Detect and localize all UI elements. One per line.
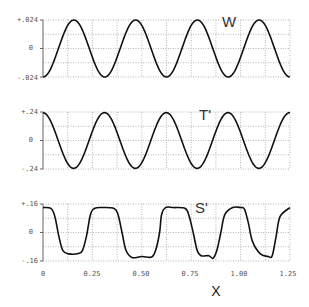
panel-s-prime: +.16 0 -.16 S' (21, 199, 290, 265)
panel-s-prime-ytick-mid: 0 (29, 228, 33, 236)
x-tick-4: 1.00 (231, 270, 248, 278)
panel-t-prime-ytick-top: +.24 (21, 108, 38, 116)
panel-s-prime-ytick-top: +.16 (21, 200, 38, 208)
panel-t-prime-ytick-bot: -.24 (21, 165, 38, 173)
panel-w-grid (40, 20, 290, 77)
panel-t-prime: +.24 0 -.24 T' (21, 106, 290, 173)
panel-s-prime-ytick-bot: -.16 (21, 257, 38, 265)
x-tick-2: 0.50 (133, 270, 150, 278)
panel-w-ytick-mid: 0 (29, 44, 33, 52)
panel-w-ytick-bot: -.024 (17, 74, 38, 82)
panel-t-prime-label: T' (199, 106, 211, 123)
panel-w-label: W (222, 13, 237, 30)
x-tick-0: 0 (41, 270, 45, 278)
panel-s-prime-grid (40, 204, 290, 261)
panel-s-prime-label: S' (195, 199, 208, 216)
panel-w: +.024 0 -.024 W (17, 13, 290, 82)
panel-t-prime-grid (40, 112, 290, 169)
chart-figure: +.024 0 -.024 W +.24 0 -.24 T' +.16 0 -.… (0, 0, 309, 307)
x-axis-label: X (211, 283, 221, 299)
panel-t-prime-ytick-mid: 0 (29, 136, 33, 144)
panel-w-ytick-top: +.024 (17, 16, 38, 24)
x-tick-3: 0.75 (182, 270, 199, 278)
x-tick-5: 1.25 (280, 270, 297, 278)
x-tick-1: 0.25 (84, 270, 101, 278)
x-axis: 0 0.25 0.50 0.75 1.00 1.25 X (41, 270, 297, 299)
